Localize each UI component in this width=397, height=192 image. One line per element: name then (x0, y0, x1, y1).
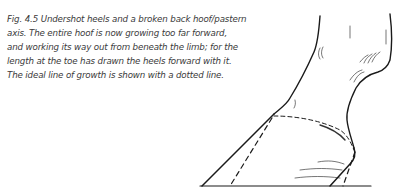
heel-outline (330, 148, 355, 186)
pastern-front-outline (274, 16, 320, 114)
hoof-wall-front (202, 114, 274, 186)
coronet-band (274, 116, 354, 150)
shading-strokes (294, 26, 386, 178)
limb-back-outline (347, 14, 392, 148)
hoof-illustration (0, 0, 397, 192)
